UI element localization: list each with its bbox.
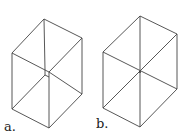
figure-a-edge-bottom-left	[12, 75, 45, 109]
figure-a-edge-right	[49, 38, 82, 72]
figure-b: b.	[96, 16, 177, 131]
figure-a-outline	[12, 19, 82, 128]
figure-a-edge-top	[44, 19, 45, 70]
figure-a-inner-square	[45, 70, 49, 77]
figure-a-edge-bottom-right	[49, 72, 82, 94]
figure-b-label: b.	[96, 116, 108, 131]
figure-a-edge-left	[12, 53, 45, 70]
diagram-canvas: a. b.	[0, 0, 189, 137]
figure-b-center-point	[139, 71, 141, 73]
figure-a-label: a.	[4, 119, 16, 134]
figure-a: a.	[4, 19, 82, 134]
